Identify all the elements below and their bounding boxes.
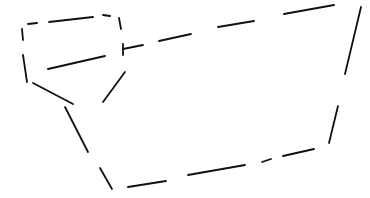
dashed-polygon-sketch [22, 5, 361, 189]
left-edge-segment-1 [65, 107, 88, 152]
top-left-box-segment-4 [22, 29, 23, 40]
left-edge-segment-0 [100, 168, 112, 189]
top-edge [123, 5, 334, 55]
top-edge-segment-2 [159, 34, 191, 41]
top-left-box-segment-3 [119, 18, 121, 29]
top-left-box-segment-2 [103, 15, 110, 16]
bottom-edge [128, 149, 314, 187]
right-edge-segment-0 [345, 7, 361, 74]
top-edge-segment-3 [218, 21, 254, 27]
left-edge [33, 72, 125, 189]
top-left-box [22, 15, 121, 82]
line-drawing-canvas [0, 0, 370, 198]
bottom-edge-segment-1 [262, 159, 271, 162]
bottom-edge-segment-3 [128, 181, 166, 187]
top-left-box-segment-5 [23, 55, 27, 82]
bottom-edge-segment-2 [188, 165, 245, 175]
bottom-edge-segment-0 [283, 149, 314, 156]
top-left-box-segment-6 [48, 56, 105, 69]
right-edge-segment-1 [329, 106, 338, 143]
top-edge-segment-1 [123, 45, 143, 49]
left-edge-segment-2 [33, 83, 73, 104]
top-left-box-segment-1 [49, 17, 93, 22]
top-left-box-segment-0 [28, 23, 37, 24]
right-edge [329, 7, 361, 143]
top-edge-segment-4 [284, 5, 334, 14]
left-edge-segment-3 [103, 72, 125, 102]
